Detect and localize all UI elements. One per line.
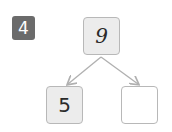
arrow-left-icon — [68, 57, 101, 84]
arrow-right-icon — [101, 57, 138, 84]
part-box-left: 5 — [46, 86, 83, 124]
part-box-right-answer[interactable] — [121, 86, 158, 124]
whole-box: 9 — [83, 17, 120, 55]
